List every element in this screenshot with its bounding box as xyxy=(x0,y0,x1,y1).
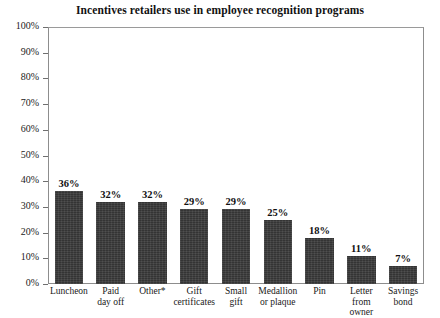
bar-value-label: 36% xyxy=(58,178,79,189)
bar xyxy=(264,220,292,284)
x-axis-tick-label: Pin xyxy=(299,286,341,297)
x-axis-tick-label-line: certificates xyxy=(173,297,215,308)
x-axis-tick-label-line: day off xyxy=(90,297,132,308)
bar-group: 32% xyxy=(96,27,124,284)
x-axis-tick-label-line: Other* xyxy=(132,286,174,297)
y-axis-tick-label: 10% xyxy=(21,251,39,262)
y-axis-tick-label: 30% xyxy=(21,200,39,211)
y-axis-tick-label: 100% xyxy=(16,20,39,31)
bar-value-label: 32% xyxy=(100,189,121,200)
bar-value-label: 29% xyxy=(184,196,205,207)
bar xyxy=(180,209,208,284)
bar xyxy=(138,202,166,284)
bar-value-label: 18% xyxy=(309,225,330,236)
bar-value-label: 7% xyxy=(395,253,411,264)
x-axis-tick-label-line: Pin xyxy=(299,286,341,297)
x-axis-tick-label-line: or plaque xyxy=(257,297,299,308)
bar xyxy=(389,266,417,284)
bar-group: 29% xyxy=(222,27,250,284)
x-axis-tick-label: Smallgift xyxy=(215,286,257,307)
bar xyxy=(347,256,375,284)
y-axis-tick-label: 60% xyxy=(21,123,39,134)
y-axis: 0%10%20%30%40%50%60%70%80%90%100% xyxy=(0,27,48,284)
x-axis: LuncheonPaidday offOther*Giftcertificate… xyxy=(48,286,424,318)
x-axis-tick-label: Other* xyxy=(132,286,174,297)
chart-title: Incentives retailers use in employee rec… xyxy=(0,4,440,16)
bar-group: 25% xyxy=(264,27,292,284)
x-axis-tick-label-line: Small xyxy=(215,286,257,297)
bar-value-label: 11% xyxy=(351,243,371,254)
y-axis-tick-label: 90% xyxy=(21,46,39,57)
y-axis-tick-label: 20% xyxy=(21,226,39,237)
bar-group: 11% xyxy=(347,27,375,284)
x-axis-tick-label: Paidday off xyxy=(90,286,132,307)
x-axis-tick-label-line: gift xyxy=(215,297,257,308)
x-axis-tick-label-line: from owner xyxy=(340,297,382,318)
x-axis-tick-label-line: Luncheon xyxy=(48,286,90,297)
x-axis-tick-label-line: Gift xyxy=(173,286,215,297)
bar xyxy=(55,191,83,284)
bar-group: 32% xyxy=(138,27,166,284)
bars-layer: 36%32%32%29%29%25%18%11%7% xyxy=(48,27,424,284)
x-axis-tick-label: Medallionor plaque xyxy=(257,286,299,307)
bar-group: 7% xyxy=(389,27,417,284)
x-axis-tick-label: Giftcertificates xyxy=(173,286,215,307)
y-axis-tick-mark xyxy=(43,284,48,285)
bar-value-label: 32% xyxy=(142,189,163,200)
x-axis-tick-label-line: Savings xyxy=(382,286,424,297)
bar-group: 29% xyxy=(180,27,208,284)
bar-chart: Incentives retailers use in employee rec… xyxy=(0,0,440,318)
bar-value-label: 25% xyxy=(267,207,288,218)
bar-group: 18% xyxy=(305,27,333,284)
y-axis-tick-label: 40% xyxy=(21,174,39,185)
y-axis-tick-label: 0% xyxy=(26,277,39,288)
y-axis-tick-label: 50% xyxy=(21,149,39,160)
bar-group: 36% xyxy=(55,27,83,284)
x-axis-tick-label-line: Letter xyxy=(340,286,382,297)
y-axis-tick-label: 70% xyxy=(21,97,39,108)
x-axis-tick-label: Letterfrom owner xyxy=(340,286,382,318)
x-axis-tick-label: Savingsbond xyxy=(382,286,424,307)
bar xyxy=(305,238,333,284)
x-axis-tick-label-line: bond xyxy=(382,297,424,308)
x-axis-tick-label-line: Paid xyxy=(90,286,132,297)
bar xyxy=(222,209,250,284)
y-axis-tick-label: 80% xyxy=(21,71,39,82)
x-axis-tick-label: Luncheon xyxy=(48,286,90,297)
bar xyxy=(96,202,124,284)
x-axis-tick-label-line: Medallion xyxy=(257,286,299,297)
bar-value-label: 29% xyxy=(225,196,246,207)
